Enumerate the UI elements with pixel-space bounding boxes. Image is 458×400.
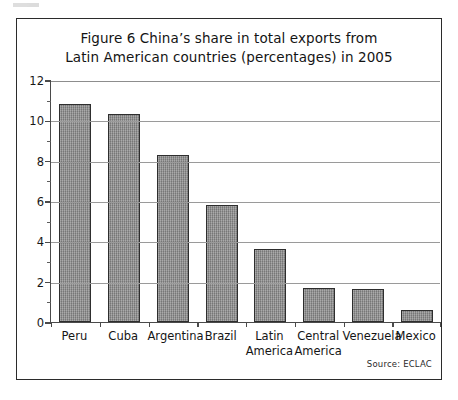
bar-latin-america [254,249,286,322]
source-note: Source: ECLAC [367,359,432,369]
x-tick-0 [51,322,52,327]
gridline-12 [51,81,440,82]
x-axis-label-cuba: Cuba [99,329,148,344]
y-axis-labels: 024681012 [8,81,44,323]
y-tick-minor-7 [47,181,51,182]
x-axis-label-mexico: Mexico [391,329,440,344]
gridline-8 [51,162,440,163]
y-tick-minor-11 [47,101,51,102]
x-axis-label-latin-america: LatinAmerica [245,329,294,358]
x-axis-label-text: Argentina [148,329,204,343]
x-tick-7 [392,322,393,327]
y-tick-minor-5 [47,222,51,223]
x-axis-label-brazil: Brazil [196,329,245,344]
y-tick-label-8: 8 [10,155,44,169]
chart-plot-wrapper: 024681012 PeruCubaArgentinaBrazilLatinAm… [0,0,458,400]
y-tick-minor-1 [47,302,51,303]
bar-brazil [206,205,238,322]
y-tick-8 [45,161,51,162]
x-axis-label-text: Brazil [205,329,237,343]
y-tick-minor-9 [47,141,51,142]
y-tick-label-4: 4 [10,235,44,249]
x-tick-8 [440,322,441,327]
y-tick-minor-3 [47,262,51,263]
x-axis-label-text: Mexico [396,329,436,343]
plot-area [50,81,440,323]
x-axis-label-argentina: Argentina [148,329,197,344]
x-axis-label-central-america: CentralAmerica [294,329,343,358]
x-axis-label-peru: Peru [50,329,99,344]
bar-central-america [303,288,335,322]
bar-venezuela [352,289,384,322]
y-tick-label-12: 12 [10,74,44,88]
x-tick-3 [197,322,198,327]
gridline-2 [51,283,440,284]
x-tick-4 [246,322,247,327]
bar-mexico [401,310,433,322]
y-tick-6 [45,201,51,202]
y-tick-2 [45,282,51,283]
x-axis-label-text-line2: America [245,344,294,359]
y-tick-12 [45,80,51,81]
bar-argentina [157,155,189,322]
bar-peru [59,104,91,322]
y-tick-4 [45,242,51,243]
x-tick-5 [295,322,296,327]
gridline-10 [51,121,440,122]
y-tick-label-6: 6 [10,195,44,209]
x-axis-label-text-line2: America [294,344,343,359]
x-tick-1 [100,322,101,327]
x-axis-label-text: Central [297,329,339,343]
x-axis-label-venezuela: Venezuela [343,329,392,344]
y-tick-label-2: 2 [10,276,44,290]
x-axis-label-text: Cuba [108,329,138,343]
x-tick-6 [344,322,345,327]
y-tick-label-0: 0 [10,316,44,330]
x-tick-2 [149,322,150,327]
y-tick-label-10: 10 [10,114,44,128]
gridline-6 [51,202,440,203]
gridline-4 [51,242,440,243]
x-axis-label-text: Latin [255,329,283,343]
x-axis-label-text: Peru [62,329,88,343]
bar-cuba [108,114,140,322]
y-tick-10 [45,121,51,122]
